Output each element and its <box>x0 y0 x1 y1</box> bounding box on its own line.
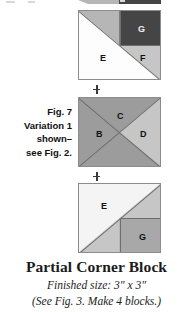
plus-icon <box>93 85 100 94</box>
patch-label-d: D <box>140 130 147 139</box>
patch-label-g: G <box>139 233 146 242</box>
patch-label-g: G <box>138 25 145 34</box>
patch-label-f: F <box>140 54 146 63</box>
top-unit: E F G <box>78 10 161 80</box>
plus-icon <box>93 172 100 181</box>
scan-speck <box>6 1 15 3</box>
patch-label-c: C <box>117 112 124 121</box>
seam-g-vertical <box>120 11 121 46</box>
bleed-dark-patch <box>119 0 161 4</box>
patch-label-e: E <box>100 54 106 63</box>
scan-speck <box>28 1 35 3</box>
figure-note-line-1: Fig. 7 <box>2 105 72 119</box>
caption-note: (See Fig. 3. Make 4 blocks.) <box>0 293 193 309</box>
figure-note-line-4: see Fig. 2. <box>2 146 72 160</box>
patch-label-e: E <box>101 202 107 211</box>
connector-plus-2 <box>0 167 193 179</box>
figure-note: Fig. 7 Variation 1 shown– see Fig. 2. <box>2 105 72 159</box>
caption-finished-size: Finished size: 3" x 3" <box>0 277 193 293</box>
seam-g-horizontal <box>120 218 161 219</box>
middle-unit: C B D <box>78 97 161 167</box>
caption-title: Partial Corner Block <box>0 258 193 276</box>
caption: Partial Corner Block Finished size: 3" x… <box>0 258 193 309</box>
patch-label-b: B <box>96 130 103 139</box>
figure-note-line-2: Variation 1 <box>2 119 72 133</box>
seam-g-horizontal <box>120 45 161 46</box>
scan-speck <box>120 0 125 2</box>
connector-plus-1 <box>0 80 193 92</box>
seam-g-vertical <box>120 218 121 253</box>
bottom-unit: E G <box>78 183 161 253</box>
figure-note-line-3: shown– <box>2 132 72 146</box>
